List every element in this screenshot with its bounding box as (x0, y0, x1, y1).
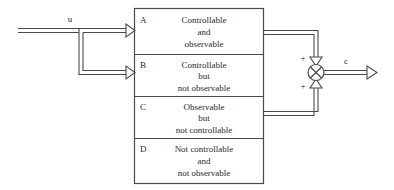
input-arrowhead-a (126, 24, 135, 37)
input-arrowhead-b (126, 66, 135, 79)
summing-sign-top: + (300, 53, 305, 63)
diagram-canvas: A Controllable and observable B Controll… (0, 0, 394, 190)
output-signal-arrowhead (367, 66, 377, 79)
block-a-line-3: observable (185, 39, 224, 49)
input-branch-a-line (79, 29, 126, 33)
block-diagram: A Controllable and observable B Controll… (0, 0, 394, 190)
output-c-line (264, 88, 318, 116)
block-a-line-1: Controllable (182, 15, 227, 25)
block-a-letter: A (140, 15, 147, 25)
block-b-letter: B (140, 60, 146, 70)
input-branch-b-line (79, 29, 126, 75)
output-signal-label: c (344, 56, 348, 66)
block-c-letter: C (140, 102, 146, 112)
block-c-line-3: not controllable (176, 125, 233, 135)
block-b-line-2: but (198, 71, 210, 81)
input-signal-label: u (68, 14, 73, 24)
block-d-line-3: not observable (178, 168, 231, 178)
block-d-line-2: and (198, 156, 211, 166)
block-d-letter: D (140, 144, 147, 154)
output-signal-line (324, 71, 367, 75)
summing-sign-bottom: + (300, 81, 305, 91)
block-b-line-3: not observable (178, 83, 231, 93)
block-c-line-2: but (198, 113, 210, 123)
input-trunk-u (18, 29, 79, 33)
block-d-line-1: Not controllable (175, 144, 234, 154)
block-a-line-2: and (198, 27, 211, 37)
output-a-line (264, 31, 318, 58)
block-b-line-1: Controllable (182, 60, 227, 70)
block-c-line-1: Observable (184, 102, 225, 112)
